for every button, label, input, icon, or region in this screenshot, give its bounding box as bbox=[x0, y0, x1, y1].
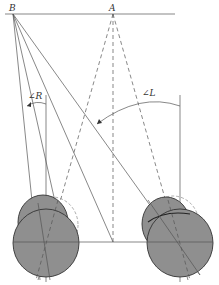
svg-text:∠R: ∠R bbox=[28, 91, 43, 101]
label-point-a: A bbox=[108, 3, 116, 13]
svg-text:∠L: ∠L bbox=[142, 88, 156, 98]
steering-geometry-diagram: B A ∠R ∠L bbox=[0, 0, 219, 285]
label-point-b: B bbox=[8, 3, 16, 13]
angle-r-annotation: ∠R bbox=[27, 91, 46, 107]
angle-l-annotation: ∠L bbox=[97, 88, 180, 124]
right-wheel-group bbox=[142, 196, 213, 280]
left-wheel-group bbox=[13, 195, 79, 280]
